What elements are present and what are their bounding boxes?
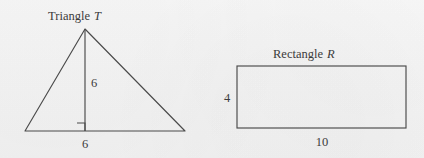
triangle-figure-group: Triangle T 6 6: [25, 9, 185, 151]
triangle-base-label: 6: [82, 137, 88, 151]
triangle-title-word: Triangle: [48, 9, 90, 23]
triangle-title-variable: T: [94, 9, 102, 23]
triangle-outline: [25, 29, 185, 131]
rectangle-figure-group: Rectangle R 4 10: [224, 47, 406, 149]
rectangle-width-label: 10: [316, 135, 329, 149]
geometry-diagram: Triangle T 6 6 Rectangle R 4 10: [0, 0, 424, 158]
rectangle-outline: [237, 66, 406, 128]
rectangle-title-word: Rectangle: [273, 47, 323, 61]
rectangle-height-label: 4: [224, 91, 231, 105]
rectangle-title-variable: R: [326, 47, 335, 61]
figure-canvas: Triangle T 6 6 Rectangle R 4 10: [0, 0, 424, 158]
triangle-height-label: 6: [91, 76, 97, 90]
right-angle-marker-icon: [77, 123, 85, 131]
